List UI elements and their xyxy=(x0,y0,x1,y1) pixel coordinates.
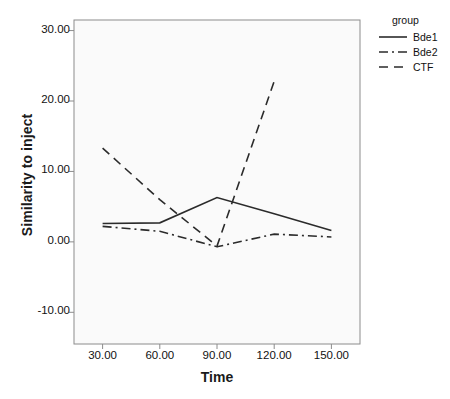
legend-label: Bde1 xyxy=(413,31,438,43)
legend-title: group xyxy=(392,14,438,26)
y-tick-label: 10.00 xyxy=(14,163,70,175)
plot-area-background xyxy=(74,20,360,344)
x-tick-label: 150.00 xyxy=(301,349,361,361)
legend-item-bde2[interactable]: Bde2 xyxy=(378,44,438,59)
legend-item-ctf[interactable]: CTF xyxy=(378,59,438,74)
legend-label: Bde2 xyxy=(413,46,438,58)
line-chart-figure: Similarity to inject Time 30.0020.0010.0… xyxy=(0,0,450,399)
x-tick-label: 30.00 xyxy=(73,349,133,361)
x-axis-label: Time xyxy=(74,369,360,385)
y-tick-label: 20.00 xyxy=(14,93,70,105)
y-axis-tick-labels: 30.0020.0010.000.00-10.00 xyxy=(8,0,70,399)
x-tick-label: 120.00 xyxy=(244,349,304,361)
x-tick-label: 90.00 xyxy=(187,349,247,361)
legend-swatch-icon xyxy=(378,32,408,42)
x-tick-label: 60.00 xyxy=(130,349,190,361)
legend-swatch-icon xyxy=(378,62,408,72)
legend-item-bde1[interactable]: Bde1 xyxy=(378,29,438,44)
y-tick-label: 0.00 xyxy=(14,234,70,246)
y-tick-label: -10.00 xyxy=(14,304,70,316)
y-tick-label: 30.00 xyxy=(14,23,70,35)
legend-swatch-icon xyxy=(378,47,408,57)
legend-label: CTF xyxy=(413,61,433,73)
legend: group Bde1Bde2CTF xyxy=(378,14,438,74)
